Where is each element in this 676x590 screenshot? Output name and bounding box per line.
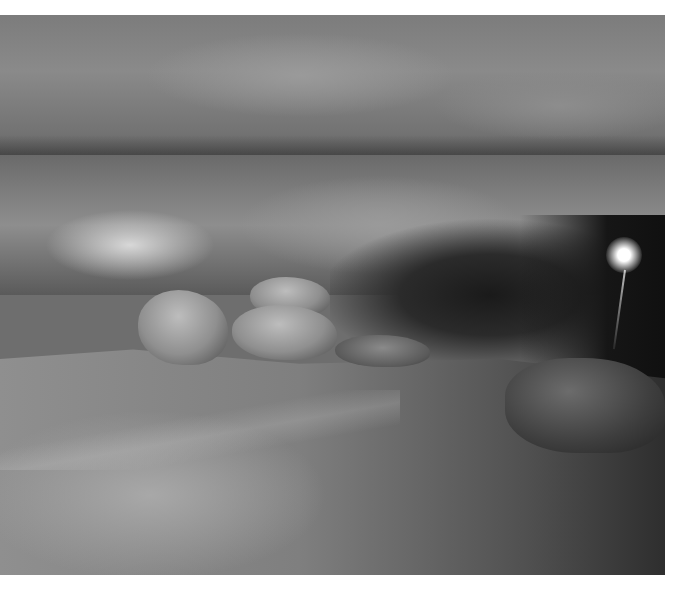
floor-ridge bbox=[0, 390, 400, 470]
boulder-right bbox=[505, 358, 665, 453]
cave-ceiling bbox=[0, 15, 665, 155]
rock-formation-low bbox=[335, 335, 430, 367]
lamp-light-icon bbox=[606, 237, 642, 273]
lion-formation-right bbox=[232, 305, 337, 360]
lion-formation-left bbox=[138, 290, 228, 365]
cave-photo bbox=[0, 15, 665, 575]
